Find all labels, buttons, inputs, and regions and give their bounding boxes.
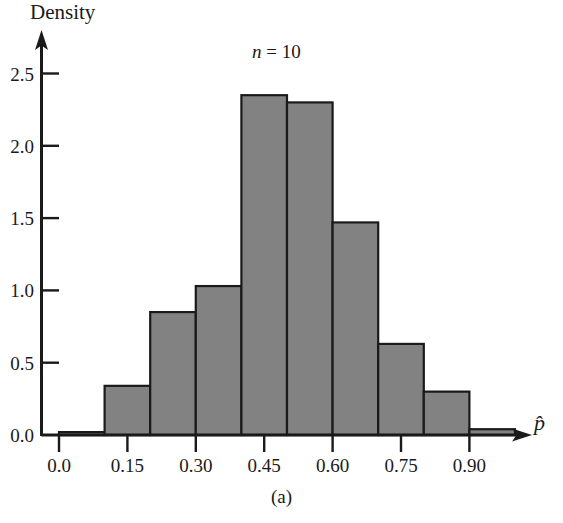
x-tick-label: 0.15 — [111, 456, 144, 475]
x-tick-label: 0.30 — [179, 456, 212, 475]
figure-caption: (a) — [0, 487, 563, 506]
x-tick-label-group: 0.00.150.300.450.600.750.90 — [0, 0, 563, 523]
x-tick-label: 0.60 — [316, 456, 349, 475]
figure-panel: Density n = 10 p̂ 0.00.51.01.52.02.5 0.0… — [0, 0, 563, 523]
x-tick-label: 0.75 — [384, 456, 417, 475]
x-tick-label: 0.90 — [453, 456, 486, 475]
x-tick-label: 0.0 — [47, 456, 71, 475]
x-tick-label: 0.45 — [248, 456, 281, 475]
